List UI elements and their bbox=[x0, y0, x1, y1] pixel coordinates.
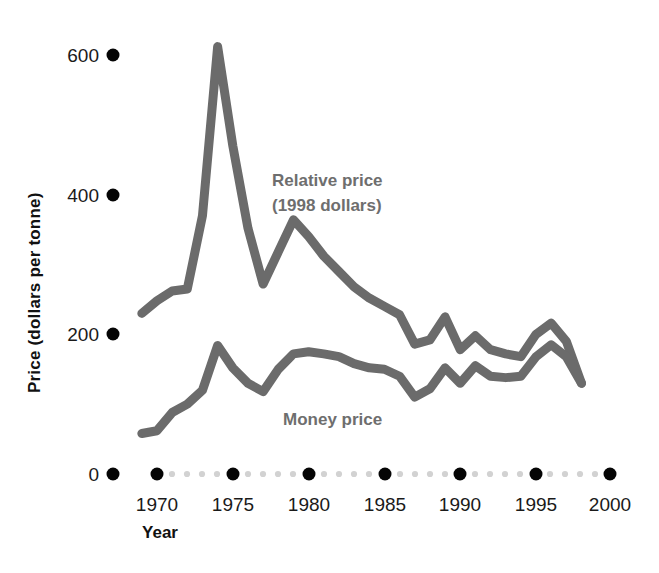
x-minor-dot bbox=[366, 471, 372, 477]
x-tick-dot-1975 bbox=[227, 468, 240, 481]
x-tick-dot-1995 bbox=[530, 468, 543, 481]
x-minor-dot bbox=[169, 471, 175, 477]
y-tick-dots bbox=[107, 49, 120, 481]
x-minor-dot bbox=[427, 471, 433, 477]
x-tick-dot-1980 bbox=[303, 468, 316, 481]
x-minor-dot bbox=[517, 471, 523, 477]
y-tick-dot-600 bbox=[107, 49, 120, 62]
price-line-chart: Price (dollars per tonne) 600 400 200 0 bbox=[0, 0, 659, 573]
x-minor-dot bbox=[214, 471, 220, 477]
x-minor-dot bbox=[397, 471, 403, 477]
x-minor-dot bbox=[245, 471, 251, 477]
x-axis-major-dots bbox=[151, 468, 617, 481]
x-tick-dot-2000 bbox=[604, 468, 617, 481]
x-tick-label-1970: 1970 bbox=[136, 494, 178, 515]
x-tick-label-2000: 2000 bbox=[589, 494, 631, 515]
x-tick-labels: 1970 1975 1980 1985 1990 1995 2000 bbox=[136, 494, 631, 515]
x-minor-dot bbox=[351, 471, 357, 477]
x-axis-title: Year bbox=[142, 523, 178, 542]
x-minor-dot bbox=[199, 471, 205, 477]
x-minor-dot bbox=[502, 471, 508, 477]
x-minor-dot bbox=[442, 471, 448, 477]
series-group bbox=[142, 47, 582, 434]
x-tick-label-1995: 1995 bbox=[515, 494, 557, 515]
x-tick-dot-1985 bbox=[379, 468, 392, 481]
x-tick-dot-1970 bbox=[151, 468, 164, 481]
chart-figure: Price (dollars per tonne) 600 400 200 0 bbox=[0, 0, 659, 573]
y-axis-title: Price (dollars per tonne) bbox=[25, 192, 44, 393]
x-minor-dot bbox=[592, 471, 598, 477]
y-tick-label-200: 200 bbox=[67, 324, 99, 345]
x-tick-label-1975: 1975 bbox=[212, 494, 254, 515]
x-tick-label-1985: 1985 bbox=[364, 494, 406, 515]
x-minor-dot bbox=[290, 471, 296, 477]
y-tick-label-400: 400 bbox=[67, 185, 99, 206]
x-tick-label-1990: 1990 bbox=[439, 494, 481, 515]
y-axis-title-group: Price (dollars per tonne) bbox=[25, 192, 44, 393]
y-tick-dot-400 bbox=[107, 189, 120, 202]
y-tick-label-600: 600 bbox=[67, 45, 99, 66]
x-minor-dot bbox=[336, 471, 342, 477]
x-minor-dot bbox=[487, 471, 493, 477]
y-tick-label-0: 0 bbox=[88, 464, 99, 485]
x-tick-dot-1990 bbox=[454, 468, 467, 481]
x-tick-label-1980: 1980 bbox=[288, 494, 330, 515]
annotation-money-price: Money price bbox=[283, 410, 382, 429]
annotation-relative-price-line2: (1998 dollars) bbox=[272, 196, 382, 215]
annotation-relative-price-line1: Relative price bbox=[272, 171, 383, 190]
x-minor-dot bbox=[472, 471, 478, 477]
x-minor-dot bbox=[577, 471, 583, 477]
x-minor-dot bbox=[275, 471, 281, 477]
y-tick-dot-0 bbox=[107, 468, 120, 481]
y-tick-dot-200 bbox=[107, 328, 120, 341]
x-minor-dot bbox=[260, 471, 266, 477]
x-minor-dot bbox=[562, 471, 568, 477]
x-minor-dot bbox=[412, 471, 418, 477]
x-minor-dot bbox=[547, 471, 553, 477]
y-tick-labels: 600 400 200 0 bbox=[67, 45, 99, 485]
x-minor-dot bbox=[321, 471, 327, 477]
x-minor-dot bbox=[184, 471, 190, 477]
